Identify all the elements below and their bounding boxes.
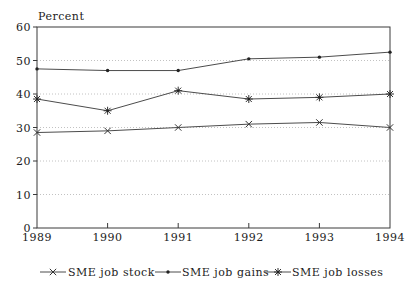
x-tick-label: 1992 — [234, 231, 264, 244]
y-tick-label: 20 — [16, 155, 31, 168]
x-tick-label: 1991 — [163, 231, 193, 244]
legend-label-sme-job-stock: SME job stock — [68, 266, 155, 279]
y-tick-label: 10 — [16, 189, 31, 202]
legend-marker-sme-job-gains-icon — [155, 270, 181, 273]
chart-canvas: Percent 01020304050601989199019911992199… — [0, 0, 415, 295]
x-tick-label: 1994 — [375, 231, 405, 244]
legend: SME job stock SME job gains SME job loss… — [40, 266, 383, 279]
legend-marker-sme-job-stock-icon — [40, 269, 66, 275]
sme-job-flows-chart: Percent 01020304050601989199019911992199… — [0, 0, 415, 295]
y-tick-label: 50 — [16, 55, 31, 68]
y-tick-label: 60 — [16, 21, 31, 34]
x-tick-label: 1989 — [22, 231, 52, 244]
series-sme-job-losses — [33, 87, 394, 115]
y-axis-title: Percent — [38, 10, 84, 23]
x-tick-label: 1990 — [93, 231, 123, 244]
plot-area: 0102030405060198919901991199219931994 — [16, 21, 405, 244]
series-sme-job-stock — [34, 119, 393, 135]
series-sme-job-gains — [35, 50, 391, 72]
y-tick-label: 30 — [16, 122, 31, 135]
gridlines — [37, 61, 390, 195]
x-tick-label: 1993 — [304, 231, 334, 244]
y-axis: 0102030405060 — [16, 21, 37, 235]
legend-label-sme-job-losses: SME job losses — [292, 266, 383, 279]
x-axis: 198919901991199219931994 — [22, 223, 405, 244]
legend-label-sme-job-gains: SME job gains — [182, 266, 269, 279]
y-tick-label: 40 — [16, 88, 31, 101]
